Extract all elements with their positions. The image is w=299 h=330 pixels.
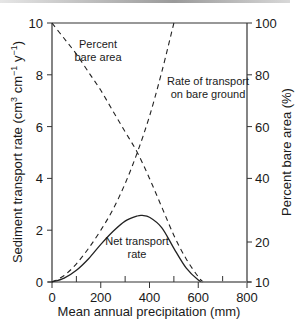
x-tick-label: 800 bbox=[236, 290, 258, 305]
y-right-tick-label: 60 bbox=[255, 120, 269, 135]
x-tick-label: 0 bbox=[48, 290, 55, 305]
y-axis-right-title: Percent bare area (%) bbox=[279, 88, 294, 216]
x-axis-title: Mean annual precipitation (mm) bbox=[58, 304, 241, 319]
x-axis: 0200400600800 bbox=[48, 276, 257, 305]
y-left-tick-label: 2 bbox=[36, 223, 43, 238]
y-left-tick-label: 0 bbox=[36, 275, 43, 290]
y-left-tick-label: 4 bbox=[36, 171, 43, 186]
y-left-tick-label: 8 bbox=[36, 68, 43, 83]
chart-area: 0200400600800 0246810 1020406080100 Perc… bbox=[0, 0, 299, 330]
annotation-net-transport-line1: Net transport bbox=[105, 235, 169, 247]
annotation-percent-bare-area-line1: Percent bbox=[79, 38, 117, 50]
y-right-tick-label: 20 bbox=[255, 235, 269, 250]
annotation-rate-bare-ground-line1: Rate of transport bbox=[167, 75, 249, 87]
y-axis-left: 0246810 bbox=[29, 16, 52, 290]
y-right-tick-label: 100 bbox=[255, 16, 277, 31]
annotation-percent-bare-area-line2: bare area bbox=[74, 51, 122, 63]
y-left-tick-label: 6 bbox=[36, 120, 43, 135]
annotation-rate-bare-ground-line2: on bare ground bbox=[171, 88, 246, 100]
x-tick-label: 400 bbox=[139, 290, 161, 305]
y-axis-left-title: Sediment transport rate (cm3 cm−1 y−1) bbox=[9, 41, 25, 263]
x-tick-label: 200 bbox=[90, 290, 112, 305]
annotation-net-transport-line2: rate bbox=[128, 248, 147, 260]
y-right-tick-label: 40 bbox=[255, 171, 269, 186]
y-right-tick-label: 80 bbox=[255, 68, 269, 83]
y-left-tick-label: 10 bbox=[29, 16, 43, 31]
y-right-tick-label: 10 bbox=[255, 275, 269, 290]
x-tick-label: 600 bbox=[187, 290, 209, 305]
y-axis-right: 1020406080100 bbox=[247, 16, 277, 290]
